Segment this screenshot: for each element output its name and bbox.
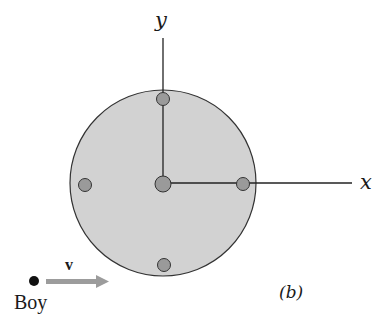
- mass-left: [79, 179, 92, 192]
- panel-label: (b): [279, 284, 303, 301]
- diagram-canvas: [0, 0, 384, 327]
- mass-right: [237, 178, 250, 191]
- mass-top: [157, 93, 170, 106]
- boy-label: Boy: [14, 292, 47, 312]
- x-axis-label: x: [360, 172, 372, 193]
- boy-dot: [29, 276, 39, 286]
- mass-bottom: [158, 259, 171, 272]
- velocity-arrow-icon: [46, 275, 109, 288]
- velocity-label: v: [65, 257, 73, 273]
- mass-center: [155, 176, 171, 192]
- y-axis-label: y: [155, 10, 167, 31]
